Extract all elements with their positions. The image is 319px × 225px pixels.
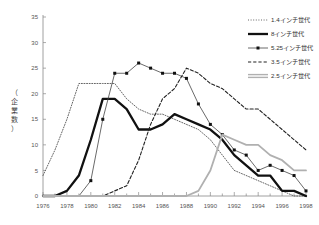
series-marker-2 — [137, 62, 140, 65]
x-tick-label: 1988 — [180, 203, 194, 209]
chart-legend: 1.4インチ世代8インチ世代5.25インチ世代3.5インチ世代2.5インチ世代 — [248, 16, 314, 80]
x-tick-label: 1994 — [252, 203, 266, 209]
x-tick-label: 1986 — [156, 203, 170, 209]
legend-label: 1.4インチ世代 — [271, 16, 311, 24]
series-marker-2 — [125, 72, 128, 75]
legend-swatch-marker — [257, 47, 260, 50]
x-tick-label: 1978 — [60, 203, 74, 209]
y-tick-label: 10 — [31, 142, 38, 148]
legend-item[interactable]: 3.5インチ世代 — [248, 58, 311, 66]
series-marker-2 — [269, 164, 272, 167]
legend-label: 3.5インチ世代 — [271, 58, 311, 66]
x-tick-label: 1996 — [275, 203, 289, 209]
series-marker-2 — [161, 72, 164, 75]
series-marker-2 — [149, 67, 152, 70]
series-marker-2 — [173, 72, 176, 75]
x-tick-label: 1976 — [36, 203, 50, 209]
legend-label: 8インチ世代 — [271, 30, 305, 38]
series-line-1 — [43, 99, 306, 196]
y-tick-label: 15 — [31, 116, 38, 122]
chart-container: 05101520253035 1976197819801982198419861… — [0, 0, 319, 225]
series-layer — [43, 62, 308, 196]
series-marker-2 — [245, 154, 248, 157]
legend-item[interactable]: 2.5インチ世代 — [248, 72, 311, 80]
series-marker-2 — [233, 148, 236, 151]
line-chart: 05101520253035 1976197819801982198419861… — [0, 0, 319, 225]
y-tick-label: 5 — [35, 168, 39, 174]
y-tick-label: 0 — [35, 193, 39, 199]
y-tick-label: 20 — [31, 91, 38, 97]
series-marker-2 — [209, 123, 212, 126]
legend-item[interactable]: 5.25インチ世代 — [248, 44, 314, 52]
x-tick-label: 1998 — [299, 203, 313, 209]
series-marker-2 — [101, 118, 104, 121]
y-axis-title: （企業数） — [11, 89, 18, 132]
y-tick-label: 30 — [31, 40, 38, 46]
legend-label: 5.25インチ世代 — [271, 44, 314, 52]
series-marker-2 — [257, 169, 260, 172]
y-tick-label: 25 — [31, 65, 38, 71]
series-marker-2 — [113, 72, 116, 75]
series-marker-2 — [185, 77, 188, 80]
legend-item[interactable]: 1.4インチ世代 — [248, 16, 311, 24]
y-tick-label: 35 — [31, 14, 38, 20]
x-tick-label: 1982 — [108, 203, 122, 209]
series-marker-2 — [89, 179, 92, 182]
x-tick-label: 1980 — [84, 203, 98, 209]
legend-label: 2.5インチ世代 — [271, 72, 311, 80]
series-marker-2 — [281, 169, 284, 172]
x-axis: 1976197819801982198419861988199019921994… — [36, 192, 313, 209]
series-line-3 — [43, 68, 306, 196]
x-tick-label: 1984 — [132, 203, 146, 209]
series-marker-2 — [305, 189, 308, 192]
legend-item[interactable]: 8インチ世代 — [248, 30, 305, 38]
y-axis: 05101520253035 — [31, 14, 46, 199]
series-line-0 — [43, 83, 306, 196]
x-tick-label: 1990 — [204, 203, 218, 209]
series-marker-2 — [197, 102, 200, 105]
x-tick-label: 1992 — [228, 203, 242, 209]
series-marker-2 — [293, 174, 296, 177]
